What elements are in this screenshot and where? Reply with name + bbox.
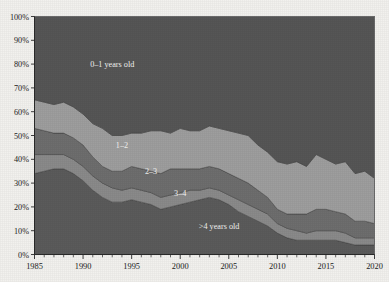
band-label: 1–2 — [116, 141, 128, 150]
band-label: 3–4 — [174, 189, 186, 198]
y-tick-label: 90% — [14, 36, 29, 45]
chart-svg: 0%10%20%30%40%50%60%70%80%90%100% 198519… — [0, 0, 389, 282]
stacked-area-chart: 0%10%20%30%40%50%60%70%80%90%100% 198519… — [0, 0, 389, 282]
y-tick-label: 60% — [14, 108, 29, 117]
x-tick-label: 1985 — [26, 262, 43, 271]
y-tick-label: 100% — [10, 13, 29, 22]
y-tick-label: 50% — [14, 132, 29, 141]
x-tick-label: 2005 — [220, 262, 237, 271]
y-tick-label: 40% — [14, 155, 29, 164]
y-tick-label: 70% — [14, 84, 29, 93]
area-series-group — [35, 17, 375, 255]
y-tick-label: 30% — [14, 179, 29, 188]
band-label: 2–3 — [145, 167, 157, 176]
x-tick-label: 1990 — [75, 262, 92, 271]
x-tick-label: 2010 — [269, 262, 286, 271]
y-tick-label: 10% — [14, 227, 29, 236]
x-tick-label: 2000 — [172, 262, 189, 271]
y-tick-label: 20% — [14, 203, 29, 212]
x-tick-label: 1995 — [123, 262, 140, 271]
y-tick-label: 0% — [18, 251, 29, 260]
x-tick-label: 2015 — [318, 262, 335, 271]
band-label: >4 years old — [199, 222, 240, 231]
band-label: 0–1 years old — [90, 60, 134, 69]
y-tick-label: 80% — [14, 60, 29, 69]
x-tick-label: 2020 — [366, 262, 383, 271]
